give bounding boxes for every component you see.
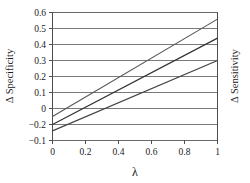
y-tick-label-0.2: 0.2 <box>34 72 46 82</box>
x-tick-label-0: 0 <box>50 147 55 157</box>
y-tick-label-neg0.2: −0.2 <box>29 120 46 130</box>
x-tick-label-1: 1 <box>215 147 220 157</box>
y-tick-label-0.3: 0.3 <box>34 56 46 66</box>
y-tick-label-neg0.1: −0.1 <box>29 136 46 146</box>
x-tick-label-0.8: 0.8 <box>179 147 191 157</box>
line-chart: 0.6 0.5 0.4 0.3 0.2 0.1 0 −0.2 −0.1 0 0.… <box>0 0 250 183</box>
x-tick-label-0.2: 0.2 <box>80 147 92 157</box>
x-axis-title: λ <box>132 165 138 179</box>
y-tick-label-0.6: 0.6 <box>34 8 46 18</box>
x-tick-label-0.4: 0.4 <box>113 147 125 157</box>
y-tick-label-0.5: 0.5 <box>34 24 46 34</box>
y-tick-label-0.1: 0.1 <box>34 88 46 98</box>
y-tick-label-0.4: 0.4 <box>34 40 46 50</box>
x-tick-label-0.6: 0.6 <box>146 147 158 157</box>
chart-figure: 0.6 0.5 0.4 0.3 0.2 0.1 0 −0.2 −0.1 0 0.… <box>0 0 250 183</box>
y-axis-title-right: Δ Sensitivity <box>229 48 240 102</box>
y-tick-label-0: 0 <box>41 104 46 114</box>
y-axis-title-left: Δ Specificity <box>4 48 15 103</box>
